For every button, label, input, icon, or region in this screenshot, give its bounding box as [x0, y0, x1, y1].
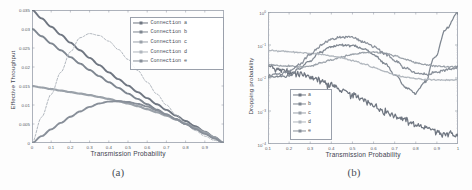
legend-item: Connection a [131, 18, 223, 28]
legend-item: Connection c [131, 37, 223, 47]
legend-item: d [291, 118, 331, 127]
legend-item: a [291, 90, 331, 99]
x-tick-label: 0.1 [45, 145, 57, 150]
x-tick-label: 0.5 [122, 145, 134, 150]
x-tick-label: 0.6 [141, 145, 153, 150]
legend-label: Connection b [151, 29, 188, 35]
y-tick-label: 10−4 [254, 142, 266, 148]
legend-label: d [308, 119, 311, 125]
legend-swatch-icon [293, 128, 306, 135]
legend-swatch-icon [293, 109, 306, 116]
y-tick-label: 0.005 [11, 122, 30, 127]
x-tick-label: 0.4 [103, 145, 115, 150]
x-tick-label: 0.7 [160, 145, 172, 150]
x-tick-label: 0.8 [180, 145, 192, 150]
x-tick-label: 0.5 [346, 146, 358, 151]
x-tick-label: 0.3 [84, 145, 96, 150]
legend-item: Connection e [131, 56, 223, 66]
x-tick-label: 1 [452, 146, 464, 151]
x-tick-label: 0.6 [368, 146, 380, 151]
panel-a-legend: Connection aConnection bConnection cConn… [130, 17, 224, 70]
panel-a: Effective Throughput 00.10.20.30.40.50.6… [0, 0, 236, 190]
legend-item: b [291, 99, 331, 108]
x-tick-label: 0.2 [64, 145, 76, 150]
panel-b-xlabel: Transmission Probability [268, 151, 458, 158]
figure-container: Effective Throughput 00.10.20.30.40.50.6… [0, 0, 472, 190]
series-line [32, 101, 224, 143]
legend-item: Connection d [131, 47, 223, 57]
legend-swatch-icon [293, 119, 306, 126]
legend-swatch-icon [133, 48, 148, 55]
legend-label: b [308, 101, 311, 107]
legend-label: Connection c [151, 39, 188, 45]
y-tick-label: 0.035 [11, 8, 30, 13]
y-tick-label: 0.02 [11, 65, 30, 70]
x-tick-label: 0.9 [199, 145, 211, 150]
y-tick-label: 10−2 [254, 76, 266, 82]
panel-b-legend: abcde [290, 89, 332, 140]
legend-swatch-icon [133, 29, 148, 36]
legend-label: e [308, 128, 311, 134]
legend-swatch-icon [293, 100, 306, 107]
panel-b-caption: (b) [236, 166, 472, 178]
legend-swatch-icon [133, 58, 148, 65]
x-tick-label: 0.8 [410, 146, 422, 151]
y-tick-label: 0.015 [11, 84, 30, 89]
y-tick-label: 0 [11, 141, 30, 146]
y-tick-label: 10−1 [254, 43, 266, 49]
legend-swatch-icon [293, 91, 306, 98]
x-tick-label: 0.3 [304, 146, 316, 151]
legend-label: c [308, 110, 311, 116]
panel-a-xlabel: Transmission Probability [32, 150, 224, 157]
y-tick-label: 100 [254, 10, 266, 16]
legend-swatch-icon [133, 38, 148, 45]
legend-label: Connection a [151, 20, 188, 26]
x-tick-label: 0.4 [325, 146, 337, 151]
legend-swatch-icon [133, 19, 148, 26]
y-tick-label: 0.025 [11, 46, 30, 51]
x-tick-label: 0.2 [283, 146, 295, 151]
y-tick-label: 0.03 [11, 27, 30, 32]
panel-b: Dropping probability 0.10.20.30.40.50.60… [236, 0, 472, 190]
legend-item: c [291, 108, 331, 117]
x-tick-label: 0.7 [389, 146, 401, 151]
y-tick-label: 10−3 [254, 109, 266, 115]
series-line [268, 13, 458, 95]
legend-item: e [291, 127, 331, 136]
legend-label: a [308, 92, 311, 98]
legend-item: Connection b [131, 28, 223, 38]
panel-a-caption: (a) [0, 166, 236, 178]
x-tick-label: 0.9 [431, 146, 443, 151]
y-tick-label: 0.01 [11, 103, 30, 108]
panel-b-ylabel: Dropping probability [247, 39, 254, 115]
legend-label: Connection e [151, 58, 188, 64]
legend-label: Connection d [151, 49, 188, 55]
